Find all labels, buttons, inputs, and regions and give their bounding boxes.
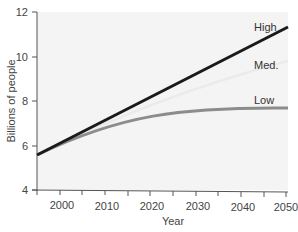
population-projection-chart: 12 10 8 6 4 Billions of people 2000 2010… [0,0,298,232]
y-tick-12: 12 [16,6,28,18]
x-axis-title: Year [162,215,185,227]
x-tick-2040: 2040 [231,201,255,213]
y-tick-10: 10 [16,51,28,63]
y-tick-8: 8 [22,95,28,107]
x-tick-2050: 2050 [274,201,298,213]
series-label-low: Low [254,94,274,106]
y-tick-6: 6 [22,140,28,152]
y-ticks [32,12,37,190]
x-tick-2010: 2010 [95,200,119,212]
series-label-high: High [254,21,277,33]
x-tick-2000: 2000 [50,199,74,211]
x-axis [32,190,288,192]
x-tick-2030: 2030 [186,200,210,212]
y-tick-4: 4 [22,184,28,196]
y-axis-title: Billions of people [5,59,17,142]
series-label-medium: Med. [254,59,278,71]
x-tick-2020: 2020 [140,200,164,212]
